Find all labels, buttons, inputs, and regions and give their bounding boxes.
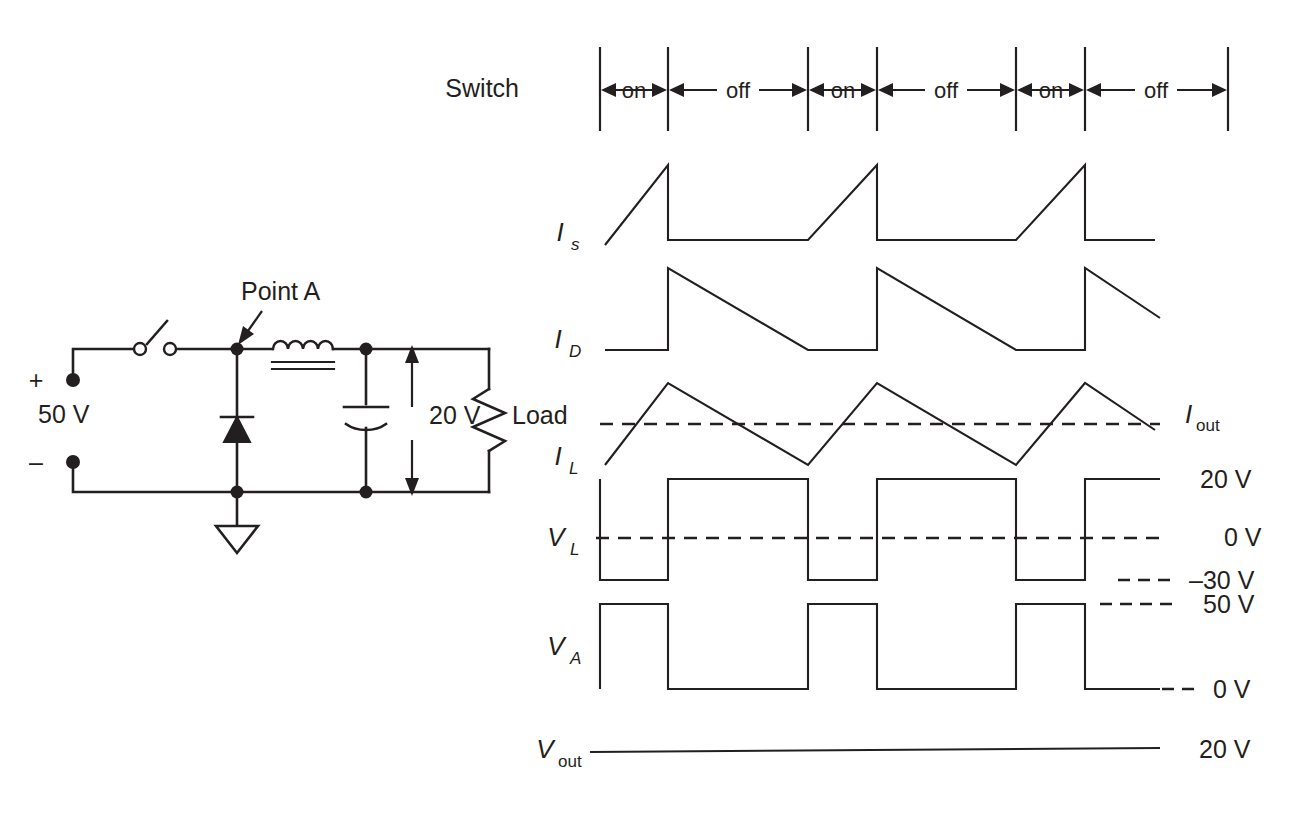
waveform-label-id-sub: D [569, 342, 581, 361]
switch-state-label: on [1039, 78, 1063, 103]
waveform-trace-va [600, 604, 1160, 689]
vout-level-label: 20 V [1199, 735, 1251, 763]
waveform-label-il-sub: L [569, 459, 578, 478]
vl-level-zero-label: 0 V [1224, 523, 1262, 551]
waveform-label-id: I [554, 324, 561, 354]
waveform-label-is-sub: s [571, 235, 580, 254]
waveform-panel: Switch on off [445, 47, 1261, 771]
circuit-diagram: + – 50 V Point A 20 V Load [29, 277, 568, 553]
va-level-low-label: 0 V [1213, 675, 1251, 703]
ground-icon [216, 492, 258, 553]
waveform-label-vout-sub: out [558, 752, 582, 771]
switch-segment-off-3: off [1086, 78, 1227, 103]
waveform-trace-id [605, 268, 1160, 350]
terminal-positive [66, 373, 80, 387]
waveform-trace-vl [600, 479, 1160, 580]
waveform-va: V A 50 V 0 V [547, 590, 1254, 703]
waveform-label-vl: V [547, 522, 567, 552]
point-a-arrow-icon [238, 311, 262, 345]
switch-state-label: on [831, 78, 855, 103]
capacitor [344, 407, 388, 430]
buck-converter-figure: + – 50 V Point A 20 V Load Switch [0, 0, 1298, 825]
switch-segment-on-3: on [1017, 78, 1084, 103]
source-voltage-label: 50 V [38, 400, 90, 428]
wire-ground-rail [73, 462, 489, 492]
waveform-label-vl-sub: L [570, 540, 579, 559]
switch-terminal-right [164, 343, 176, 355]
waveform-vout: V out 20 V [536, 734, 1250, 771]
inductor [272, 341, 334, 369]
switch-blade[interactable] [147, 321, 167, 344]
plus-sign-label: + [29, 366, 44, 394]
waveform-trace-is [605, 165, 1155, 245]
switch-segment-off-1: off [669, 78, 807, 103]
waveform-is: I s [556, 165, 1155, 254]
switch-segment-off-2: off [878, 78, 1015, 103]
waveform-label-il: I [554, 441, 561, 471]
point-a-label: Point A [241, 277, 321, 305]
waveform-vl: V L 20 V 0 V –30 V [547, 465, 1262, 594]
iout-label: I [1185, 399, 1192, 429]
waveform-il: I L I out [554, 383, 1220, 478]
waveform-label-va-sub: A [569, 649, 581, 668]
switch-terminal-left [134, 343, 146, 355]
switch-row-label: Switch [445, 74, 519, 102]
waveform-label-is: I [556, 217, 563, 247]
iout-label-sub: out [1196, 416, 1220, 435]
switch-state-label: off [1144, 78, 1169, 103]
waveform-label-vout: V [536, 734, 556, 764]
va-level-high-label: 50 V [1203, 590, 1255, 618]
switch-state-label: off [934, 78, 959, 103]
output-voltage-label: 20 V [429, 401, 481, 429]
wire-positive-to-switch [73, 349, 134, 380]
switch-segment-on-1: on [601, 78, 667, 103]
diode [221, 417, 253, 442]
minus-sign-label: – [29, 448, 43, 476]
terminal-negative [66, 455, 80, 469]
switch-state-label: on [622, 78, 646, 103]
switch-state-label: off [726, 78, 751, 103]
output-voltage-arrow-icon [405, 345, 419, 496]
load-label: Load [512, 401, 568, 429]
switch-segment-on-2: on [809, 78, 876, 103]
waveform-id: I D [554, 268, 1160, 361]
waveform-label-va: V [547, 631, 567, 661]
vl-level-high-label: 20 V [1200, 465, 1252, 493]
waveform-trace-vout [590, 748, 1160, 752]
